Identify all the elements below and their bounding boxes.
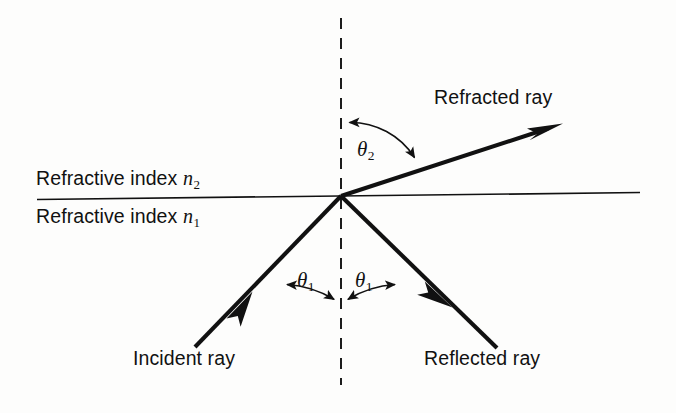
refractive-index-upper-text: Refractive index [36, 167, 183, 189]
refractive-index-lower-label: Refractive index n1 [36, 206, 200, 229]
refraction-diagram: Refracted ray Incident ray Reflected ray… [0, 0, 676, 413]
theta-1-right-subscript: 1 [365, 279, 372, 294]
theta-1-right-label: θ1 [355, 270, 373, 294]
refractive-index-lower-symbol: n [183, 205, 193, 227]
refractive-index-lower-subscript: 1 [193, 215, 200, 230]
theta-1-left-subscript: 1 [307, 279, 314, 294]
theta-1-left-label: θ1 [297, 270, 315, 294]
refractive-index-upper-label: Refractive index n2 [36, 168, 200, 191]
refractive-index-upper-symbol: n [183, 167, 193, 189]
theta-1-right-symbol: θ [355, 268, 365, 292]
theta-2-symbol: θ [357, 137, 367, 161]
refracted-ray-label: Refracted ray [434, 88, 552, 108]
theta-1-left-symbol: θ [297, 268, 307, 292]
incident-ray-label: Incident ray [133, 349, 235, 369]
theta-2-label: θ2 [357, 139, 375, 163]
reflected-ray-label: Reflected ray [424, 349, 540, 369]
refractive-index-lower-text: Refractive index [36, 205, 183, 227]
refractive-index-upper-subscript: 2 [193, 177, 200, 192]
theta-2-subscript: 2 [367, 148, 374, 163]
incident-ray-line [195, 196, 341, 347]
